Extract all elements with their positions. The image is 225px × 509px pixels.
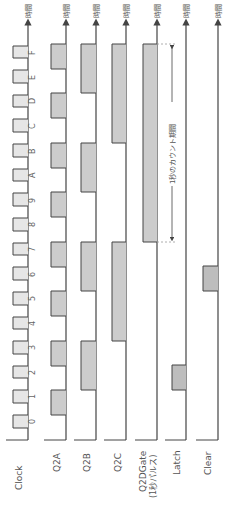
time-label-q2dgate: 時間 <box>154 4 162 18</box>
label-clock: Clock <box>14 465 24 490</box>
time-label-q2b: 時間 <box>93 4 101 18</box>
channel-latch <box>165 22 186 440</box>
tick-2: 2 <box>28 370 37 375</box>
tick-0: 0 <box>28 419 37 424</box>
tick-7: 7 <box>28 247 37 252</box>
tick-A: A <box>28 172 37 178</box>
tick-C: C <box>28 123 37 129</box>
label-q2dgate: Q2DGate <box>138 450 148 492</box>
channel-q2dgate: 1秒のカウント期間 <box>135 22 177 440</box>
time-label-q2a: 時間 <box>63 4 71 18</box>
tick-6: 6 <box>28 272 37 277</box>
time-label-latch: 時間 <box>183 4 191 18</box>
time-axis-labels: 時間 時間 時間 時間 時間 時間 時間 <box>25 4 223 18</box>
tick-B: B <box>28 149 37 155</box>
channel-clear <box>196 22 218 440</box>
channel-clock <box>6 22 28 440</box>
time-label-clear: 時間 <box>215 4 223 18</box>
timing-diagram: 0 1 2 3 4 5 6 7 8 9 A B C D E F <box>0 0 225 509</box>
label-latch: Latch <box>172 450 182 475</box>
label-q2b: Q2B <box>82 453 92 472</box>
time-label-q2c: 時間 <box>123 4 131 18</box>
tick-9: 9 <box>28 198 37 203</box>
label-q2a: Q2A <box>52 452 62 472</box>
label-clear: Clear <box>203 451 213 475</box>
label-q2c: Q2C <box>113 453 123 472</box>
tick-1: 1 <box>28 394 37 399</box>
channel-q2a <box>44 22 66 440</box>
tick-5: 5 <box>28 296 37 301</box>
tick-4: 4 <box>28 321 37 326</box>
label-q2dgate-sub: (1秒パルス) <box>148 455 158 498</box>
clock-tick-labels: 0 1 2 3 4 5 6 7 8 9 A B C D E F <box>28 50 37 424</box>
time-label-clock: 時間 <box>25 4 33 18</box>
tick-3: 3 <box>28 345 37 350</box>
channel-q2c <box>104 22 126 440</box>
tick-8: 8 <box>28 222 37 227</box>
tick-E: E <box>28 75 37 80</box>
channel-q2b <box>74 22 96 440</box>
channel-labels: Clock Q2A Q2B Q2C Q2DGate (1秒パルス) Latch … <box>14 450 213 498</box>
tick-F: F <box>28 50 37 55</box>
tick-D: D <box>28 98 37 104</box>
count-period-annotation: 1秒のカウント期間 <box>168 124 177 184</box>
